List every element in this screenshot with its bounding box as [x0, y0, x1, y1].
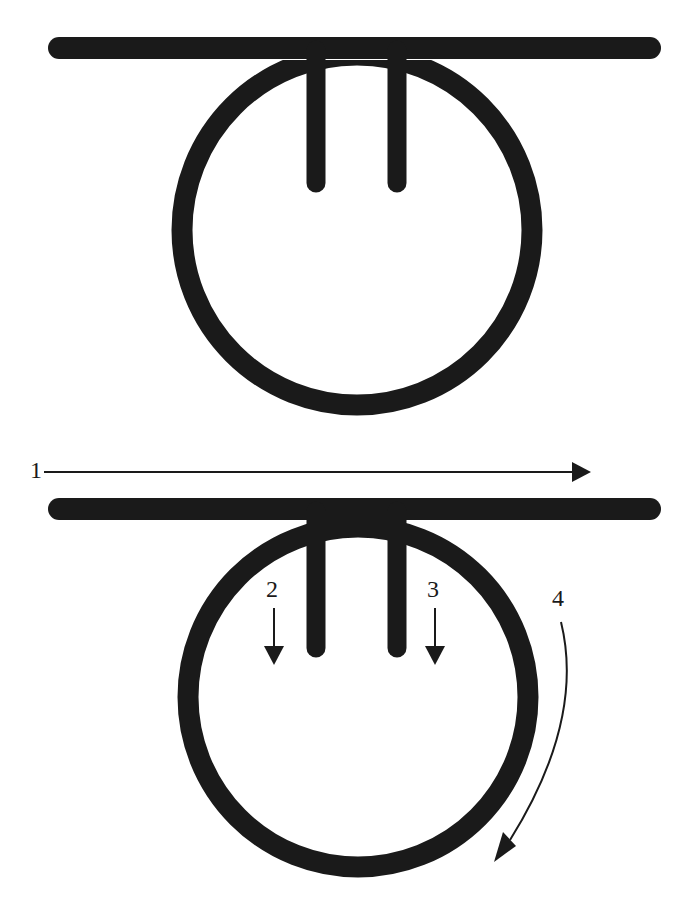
top-figure	[40, 36, 662, 405]
top-loop	[182, 55, 532, 405]
step-3-arrow: 3	[425, 576, 445, 665]
bottom-figure: 1 2 3 4	[30, 457, 650, 867]
step-3-label: 3	[427, 576, 439, 602]
step-2-label: 2	[266, 576, 278, 602]
diagram-canvas: 1 2 3 4	[0, 0, 689, 911]
step-4-label: 4	[552, 585, 564, 611]
step-1-label: 1	[30, 457, 42, 483]
step-1-arrow: 1	[30, 457, 591, 483]
bottom-loop	[188, 527, 528, 867]
step-2-arrow: 2	[264, 576, 284, 665]
